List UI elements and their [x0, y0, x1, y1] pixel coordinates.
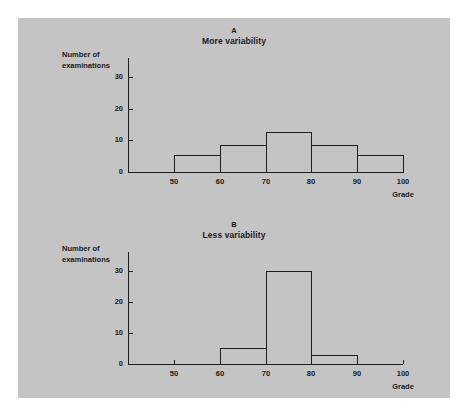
chart-panel-b: B Less variability Number of examination… — [18, 208, 450, 398]
chart-a-title-block: A More variability — [18, 26, 450, 47]
y-axis-tick — [129, 77, 133, 78]
x-axis-tick — [403, 360, 404, 364]
x-axis-tick-label: 70 — [255, 370, 277, 378]
chart-a-panel-letter: A — [18, 26, 450, 36]
x-axis-label: Grade — [386, 190, 420, 199]
x-axis-tick-label: 60 — [209, 370, 231, 378]
y-axis-tick — [129, 333, 133, 334]
x-axis-tick-label: 50 — [163, 178, 185, 186]
histogram-bar — [174, 155, 221, 173]
figure-panel: A More variability Number of examination… — [18, 18, 450, 398]
chart-panel-a: A More variability Number of examination… — [18, 18, 450, 208]
y-axis-tick — [129, 140, 133, 141]
histogram-bar — [266, 132, 312, 173]
histogram-bar — [357, 155, 404, 173]
histogram-bar — [220, 145, 267, 173]
x-axis-tick-label: 90 — [346, 178, 368, 186]
x-axis-tick-label: 80 — [300, 370, 322, 378]
histogram-bar — [266, 271, 312, 365]
chart-b-title-block: B Less variability — [18, 220, 450, 241]
histogram-bar — [220, 348, 267, 365]
chart-b-panel-letter: B — [18, 220, 450, 230]
y-axis-line — [128, 58, 129, 173]
x-axis-tick-label: 100 — [392, 370, 414, 378]
x-axis-tick-label: 100 — [392, 178, 414, 186]
x-axis-tick — [174, 360, 175, 364]
y-axis-tick — [129, 271, 133, 272]
x-axis-label: Grade — [386, 382, 420, 391]
chart-b-title: Less variability — [18, 230, 450, 241]
y-axis-tick — [129, 109, 133, 110]
histogram-bar — [311, 355, 358, 365]
y-axis-tick-label: 20 — [103, 105, 123, 113]
y-axis-tick-label: 30 — [103, 73, 123, 81]
x-axis-tick-label: 70 — [255, 178, 277, 186]
y-axis-tick — [129, 302, 133, 303]
y-axis-tick-label: 10 — [103, 329, 123, 337]
y-axis-tick-label: 0 — [103, 168, 123, 176]
histogram-bar — [311, 145, 358, 173]
chart-a-title: More variability — [18, 36, 450, 47]
y-axis-line — [128, 252, 129, 365]
figure-root: A More variability Number of examination… — [0, 0, 462, 419]
x-axis-tick-label: 50 — [163, 370, 185, 378]
y-axis-tick-label: 10 — [103, 136, 123, 144]
x-axis-tick-label: 80 — [300, 178, 322, 186]
x-axis-tick-label: 60 — [209, 178, 231, 186]
y-axis-tick-label: 0 — [103, 360, 123, 368]
y-axis-tick-label: 30 — [103, 267, 123, 275]
y-axis-tick-label: 20 — [103, 298, 123, 306]
x-axis-tick-label: 90 — [346, 370, 368, 378]
